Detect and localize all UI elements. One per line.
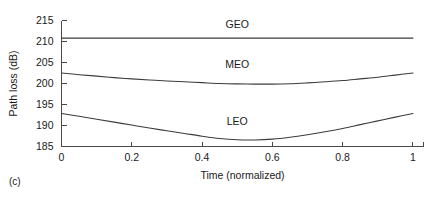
x-tick-label: 0.2 bbox=[124, 151, 139, 163]
x-tick-label: 1 bbox=[410, 151, 416, 163]
series-label-geo: GEO bbox=[226, 18, 249, 30]
y-axis-ticks bbox=[62, 21, 67, 147]
x-tick-label: 0.6 bbox=[265, 151, 280, 163]
y-tick-label: 210 bbox=[36, 35, 54, 47]
series-label-leo: LEO bbox=[227, 115, 248, 127]
y-tick-label: 190 bbox=[36, 119, 54, 131]
y-tick-label: 185 bbox=[36, 140, 54, 152]
figure-container: 185190195200205210215 00.20.40.60.81 GEO… bbox=[0, 0, 438, 198]
series-line-meo bbox=[62, 73, 413, 84]
x-tick-label: 0.4 bbox=[195, 151, 210, 163]
subfigure-caption: (c) bbox=[9, 176, 21, 187]
series-label-meo: MEO bbox=[225, 58, 249, 70]
x-tick-label: 0.8 bbox=[335, 151, 350, 163]
y-tick-labels: 185190195200205210215 bbox=[36, 14, 54, 152]
x-tick-label: 0 bbox=[59, 151, 65, 163]
y-tick-label: 205 bbox=[36, 56, 54, 68]
y-tick-label: 215 bbox=[36, 14, 54, 26]
x-axis-title: Time (normalized) bbox=[200, 169, 284, 181]
x-tick-labels: 00.20.40.60.81 bbox=[59, 151, 416, 163]
y-tick-label: 195 bbox=[36, 98, 54, 110]
path-loss-chart: 185190195200205210215 00.20.40.60.81 GEO… bbox=[0, 0, 438, 198]
y-tick-label: 200 bbox=[36, 77, 54, 89]
y-axis-title: Path loss (dB) bbox=[7, 51, 19, 117]
x-axis-ticks bbox=[62, 142, 424, 147]
series-inline-labels: GEOMEOLEO bbox=[225, 18, 249, 127]
